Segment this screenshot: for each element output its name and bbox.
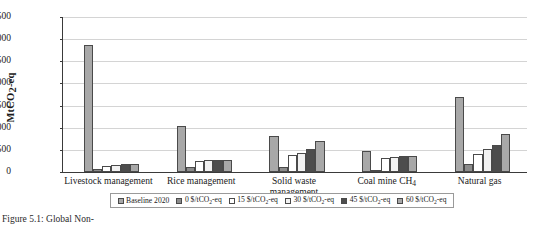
figure-caption: Figure 5.1: Global Non- [2,214,540,229]
bar [371,170,380,172]
bar [306,149,315,172]
bar [223,160,232,172]
bar [213,160,222,172]
x-axis-category-label: Natural gas [421,176,538,187]
bar-group [84,17,139,172]
bar [390,157,399,172]
bar [269,136,278,172]
legend-swatch-icon [176,198,182,204]
bar-group [362,17,417,172]
legend-item[interactable]: 45 $/tCO2-eq [341,196,390,206]
bar [455,97,464,172]
y-axis-tick-mark [60,172,63,173]
bar-group [269,17,324,172]
legend-label: 60 $/tCO2-eq [406,196,447,206]
bar [121,164,130,172]
bar [204,160,213,172]
bar [102,166,111,172]
bar [399,156,408,172]
legend-label: 15 $/tCO2-eq [237,196,278,206]
legend-swatch-icon [397,198,403,204]
bar [288,155,297,172]
y-axis-tick-mark [60,83,63,84]
y-axis-tick-label: 2,000 [0,78,11,87]
y-axis-tick-mark [60,61,63,62]
legend-label: 30 $/tCO2-eq [294,196,335,206]
y-axis-tick-label: 2,500 [0,56,11,65]
legend-label: Baseline 2020 [126,197,169,205]
figure-container: MtCO2-eq 05001,0001,5002,0002,5003,0003,… [0,0,542,230]
legend-label: 45 $/tCO2-eq [350,196,391,206]
y-axis-tick-label: 3,000 [0,34,11,43]
plot-area [62,17,527,173]
legend-swatch-icon [341,198,347,204]
chart-legend: Baseline 20200 $/tCO2-eq15 $/tCO2-eq30 $… [110,193,454,208]
legend-swatch-icon [285,198,291,204]
legend-item[interactable]: 15 $/tCO2-eq [229,196,278,206]
bar [473,154,482,172]
bar [381,158,390,172]
legend-label: 0 $/tCO2-eq [185,196,222,206]
legend-swatch-icon [229,198,235,204]
bar [93,169,102,172]
bar [186,167,195,172]
y-axis-tick-mark [60,150,63,151]
legend-item[interactable]: 60 $/tCO2-eq [397,196,446,206]
bar [315,141,324,172]
bar [195,161,204,172]
y-axis-tick-mark [60,39,63,40]
legend-swatch-icon [118,198,124,204]
y-axis-tick-mark [60,128,63,129]
bar [177,126,186,173]
bar [464,164,473,172]
legend-item[interactable]: 0 $/tCO2-eq [176,196,221,206]
bar [501,134,510,172]
bar-group [177,17,232,172]
bar [297,153,306,172]
y-axis-tick-label: 1,500 [0,101,11,110]
legend-item[interactable]: Baseline 2020 [118,197,170,205]
bar [111,165,120,172]
y-axis-tick-label: 1,000 [0,123,11,132]
bar [279,167,288,172]
y-axis-tick-mark [60,17,63,18]
bar [408,156,417,172]
y-axis-tick-mark [60,106,63,107]
bar [483,149,492,172]
bar-group [455,17,510,172]
legend-item[interactable]: 30 $/tCO2-eq [285,196,334,206]
y-axis-tick-label: 0 [0,167,11,176]
y-axis-tick-label: 3,500 [0,12,11,21]
bar [362,151,371,172]
y-axis-tick-label: 500 [0,145,11,154]
bar [492,145,501,172]
bar [130,164,139,172]
bar [84,45,93,172]
